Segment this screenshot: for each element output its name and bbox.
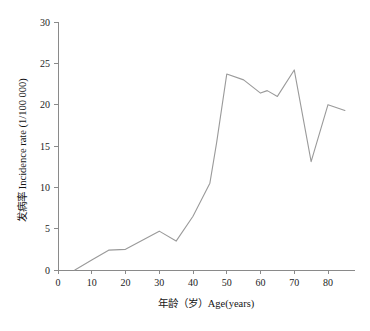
x-axis-title: 年龄（岁）Age(years) [158, 297, 255, 310]
x-tick-label-40: 40 [188, 277, 198, 288]
y-tick-label-15: 15 [40, 141, 50, 152]
chart-figure: 051015202530 01020304050607080 年龄（岁）Age(… [0, 0, 370, 331]
y-tick-label-5: 5 [45, 223, 50, 234]
x-tick-label-0: 0 [56, 277, 61, 288]
y-axis-ticks [54, 22, 58, 270]
x-tick-label-50: 50 [222, 277, 232, 288]
x-tick-label-70: 70 [289, 277, 299, 288]
y-tick-label-10: 10 [40, 182, 50, 193]
y-tick-label-30: 30 [40, 17, 50, 28]
data-series-line [75, 70, 345, 270]
y-axis: 051015202530 [40, 17, 58, 276]
x-tick-label-80: 80 [323, 277, 333, 288]
x-axis-tick-labels: 01020304050607080 [56, 277, 334, 288]
y-tick-label-25: 25 [40, 58, 50, 69]
incidence-line-chart: 051015202530 01020304050607080 年龄（岁）Age(… [0, 0, 370, 331]
y-axis-tick-labels: 051015202530 [40, 17, 50, 276]
x-tick-label-60: 60 [256, 277, 266, 288]
x-tick-label-30: 30 [154, 277, 164, 288]
y-axis-title: 发病率 Incidence rate (1/100 000) [16, 78, 29, 222]
x-axis: 01020304050607080 [56, 270, 356, 288]
y-tick-label-0: 0 [45, 265, 50, 276]
x-axis-ticks [58, 270, 328, 274]
y-tick-label-20: 20 [40, 99, 50, 110]
x-tick-label-10: 10 [87, 277, 97, 288]
x-tick-label-20: 20 [121, 277, 131, 288]
